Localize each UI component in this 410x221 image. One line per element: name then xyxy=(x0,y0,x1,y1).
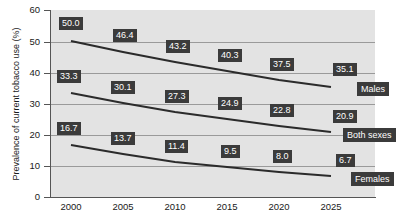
x-tick-label-2005: 2005 xyxy=(103,201,143,212)
data-label-females-2025: 6.7 xyxy=(336,154,355,167)
data-label-males-2015: 40.3 xyxy=(218,49,242,62)
y-tick-label-0: 0 xyxy=(0,191,40,202)
series-label-males: Males xyxy=(357,82,389,96)
data-label-both-sexes-2005: 30.1 xyxy=(111,81,135,94)
data-label-males-2020: 37.5 xyxy=(270,58,294,71)
data-label-males-2005: 46.4 xyxy=(113,29,137,42)
data-label-males-2025: 35.1 xyxy=(333,63,357,76)
data-label-females-2015: 9.5 xyxy=(221,145,240,158)
data-label-both-sexes-2000: 33.3 xyxy=(57,70,81,83)
y-tick-mark-50 xyxy=(44,42,51,43)
y-tick-label-20: 20 xyxy=(0,129,40,140)
gridline-40 xyxy=(51,73,375,74)
series-label-females: Females xyxy=(351,172,394,186)
tobacco-prevalence-chart: Prevalence of current tobacco use (%) 60… xyxy=(0,0,410,221)
x-axis-line xyxy=(50,197,376,198)
data-label-females-2000: 16.7 xyxy=(57,122,81,135)
x-tick-label-2020: 2020 xyxy=(259,201,299,212)
data-label-both-sexes-2025: 20.9 xyxy=(333,110,357,123)
y-tick-label-50: 50 xyxy=(0,36,40,47)
data-label-both-sexes-2015: 24.9 xyxy=(218,97,242,110)
gridline-50 xyxy=(51,42,375,43)
y-tick-mark-60 xyxy=(44,10,51,11)
x-tick-label-2010: 2010 xyxy=(155,201,195,212)
data-label-males-2000: 50.0 xyxy=(59,17,83,30)
y-tick-mark-0 xyxy=(44,197,51,198)
data-label-both-sexes-2010: 27.3 xyxy=(165,90,189,103)
y-tick-label-60: 60 xyxy=(0,4,40,15)
x-tick-label-2000: 2000 xyxy=(51,201,91,212)
y-tick-mark-10 xyxy=(44,166,51,167)
data-label-both-sexes-2020: 22.8 xyxy=(270,104,294,117)
y-tick-label-40: 40 xyxy=(0,67,40,78)
data-label-females-2020: 8.0 xyxy=(273,150,292,163)
y-tick-label-30: 30 xyxy=(0,98,40,109)
gridline-30 xyxy=(51,104,375,105)
y-tick-mark-20 xyxy=(44,135,51,136)
x-tick-label-2015: 2015 xyxy=(207,201,247,212)
gridline-10 xyxy=(51,166,375,167)
y-tick-mark-40 xyxy=(44,73,51,74)
y-tick-label-10: 10 xyxy=(0,160,40,171)
data-label-males-2010: 43.2 xyxy=(166,40,190,53)
x-tick-label-2025: 2025 xyxy=(311,201,351,212)
series-label-both-sexes: Both sexes xyxy=(343,128,396,142)
data-label-females-2010: 11.4 xyxy=(165,140,188,153)
gridline-20 xyxy=(51,135,375,136)
data-label-females-2005: 13.7 xyxy=(111,132,135,145)
y-tick-mark-30 xyxy=(44,104,51,105)
plot-area xyxy=(51,10,375,197)
